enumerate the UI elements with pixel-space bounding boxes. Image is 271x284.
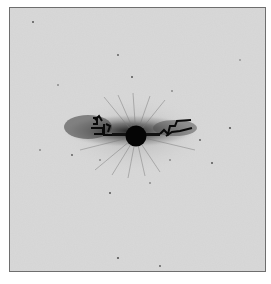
scientific-image bbox=[0, 0, 271, 284]
core bbox=[126, 126, 147, 147]
